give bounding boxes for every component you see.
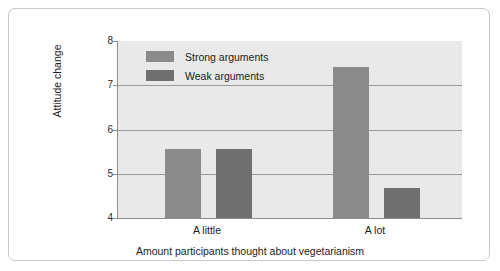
x-group-label-a-little: A little [193,224,221,236]
legend-label-strong-arguments: Strong arguments [185,51,268,63]
legend-swatch-weak-arguments [146,70,174,81]
figure-frame: Attitude change 8 7 6 5 4 [8,8,490,261]
y-tick-label-8: 8 [85,36,113,46]
gridline-7 [118,85,462,86]
bar-a-lot-weak-arguments [384,188,420,218]
y-tick-label-7: 7 [85,80,113,90]
bar-a-little-strong-arguments [165,149,201,218]
x-group-label-a-lot: A lot [365,224,385,236]
y-axis-title: Attitude change [51,21,63,141]
legend-item-weak-arguments: Weak arguments [146,66,316,85]
bar-a-little-weak-arguments [216,149,252,218]
y-tick-label-5: 5 [85,169,113,179]
y-axis-ticks: 8 7 6 5 4 [83,41,113,218]
screenshot-root: Attitude change 8 7 6 5 4 [0,0,500,271]
y-tick-label-6: 6 [85,125,113,135]
bar-a-lot-strong-arguments [333,67,369,218]
x-axis-title: Amount participants thought about vegeta… [9,245,491,257]
legend-item-strong-arguments: Strong arguments [146,47,316,66]
legend-label-weak-arguments: Weak arguments [185,70,264,82]
chart-legend: Strong arguments Weak arguments [146,47,316,85]
y-tick-label-4: 4 [85,213,113,223]
gridline-6 [118,130,462,131]
plot-area: Strong arguments Weak arguments [117,41,462,219]
legend-swatch-strong-arguments [146,51,174,62]
